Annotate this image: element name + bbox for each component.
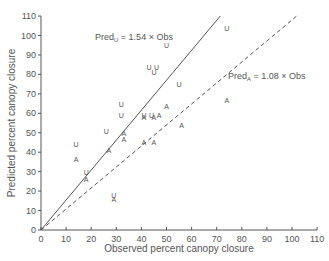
- point-U: U: [119, 101, 124, 108]
- point-A: A: [111, 196, 116, 203]
- y-tick-label: 40: [26, 147, 36, 157]
- y-tick-label: 70: [26, 89, 36, 99]
- y-axis-label: Predicted percent canopy closure: [6, 48, 17, 197]
- point-U: U: [164, 42, 169, 49]
- y-tick-label: 20: [26, 186, 36, 196]
- point-A: A: [142, 114, 147, 121]
- y-tick-label: 100: [21, 31, 36, 41]
- point-U: U: [151, 69, 156, 76]
- y-tick-label: 0: [31, 225, 36, 235]
- y-tick-label: 60: [26, 108, 36, 118]
- point-A: A: [142, 139, 147, 146]
- point-U: U: [74, 141, 79, 148]
- x-axis-label: Observed percent canopy closure: [104, 243, 254, 254]
- label-PredU: PredU = 1.54 × Obs: [95, 32, 173, 43]
- x-tick-label: 20: [86, 234, 96, 244]
- axes: 0102030405060708090100110010203040506070…: [21, 11, 324, 244]
- y-tick-label: 50: [26, 128, 36, 138]
- x-tick-label: 10: [61, 234, 71, 244]
- point-U: U: [84, 169, 89, 176]
- point-U: U: [177, 81, 182, 88]
- point-A: A: [106, 147, 111, 154]
- y-tick-label: 90: [26, 50, 36, 60]
- point-A: A: [157, 112, 162, 119]
- label-PredA: PredA = 1.08 × Obs: [228, 71, 306, 82]
- scatter-chart: 0102030405060708090100110010203040506070…: [0, 0, 329, 261]
- data-points: UUUUUUUUUUUUUUAAAAAAAAAAAAAA: [74, 25, 230, 203]
- point-U: U: [119, 112, 124, 119]
- point-A: A: [179, 122, 184, 129]
- x-tick-label: 0: [38, 234, 43, 244]
- point-A: A: [164, 103, 169, 110]
- point-A: A: [121, 136, 126, 143]
- y-tick-label: 10: [26, 206, 36, 216]
- point-A: A: [84, 176, 89, 183]
- point-U: U: [224, 25, 229, 32]
- y-tick-label: 80: [26, 69, 36, 79]
- x-tick-label: 110: [310, 234, 324, 244]
- x-tick-label: 100: [284, 234, 299, 244]
- y-tick-label: 30: [26, 167, 36, 177]
- y-tick-label: 110: [22, 11, 36, 21]
- point-A: A: [74, 156, 79, 163]
- x-tick-label: 90: [262, 234, 272, 244]
- point-A: A: [224, 97, 229, 104]
- point-A: A: [152, 139, 157, 146]
- point-U: U: [104, 128, 109, 135]
- line-PredU: [41, 16, 220, 230]
